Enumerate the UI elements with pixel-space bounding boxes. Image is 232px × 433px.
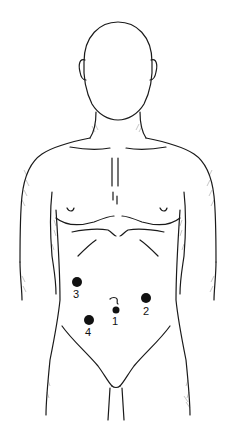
sternum (112, 158, 118, 204)
crotch (108, 386, 124, 420)
marker-4-label: 4 (85, 327, 91, 338)
navel (110, 298, 118, 305)
head-outline (84, 22, 152, 120)
shading-neck (92, 124, 142, 132)
anatomical-figure: 1 2 3 4 (0, 0, 232, 433)
right-arm-inner (180, 192, 186, 294)
right-flank (176, 210, 190, 415)
costal-margin-right (120, 229, 164, 236)
neck-left (90, 112, 96, 138)
marker-2-dot (141, 293, 151, 303)
left-arm-inner (51, 192, 57, 294)
left-ear (79, 60, 86, 80)
right-nipple (160, 208, 167, 211)
right-ear (150, 60, 157, 80)
right-clavicle (126, 147, 166, 149)
shading-legs (47, 380, 190, 408)
marker-4-dot (84, 315, 94, 325)
torso-line-drawing (0, 0, 232, 433)
left-flank (46, 210, 60, 415)
left-nipple (67, 208, 74, 211)
right-pectoral (122, 216, 180, 225)
rib-right (140, 240, 158, 256)
neck-right (140, 112, 146, 138)
marker-1-label: 1 (112, 316, 118, 327)
marker-3-label: 3 (73, 289, 79, 300)
left-shoulder (20, 138, 90, 262)
marker-3-dot (72, 277, 82, 287)
left-arm-outer (20, 262, 22, 300)
right-shoulder (146, 138, 216, 262)
left-pectoral (56, 216, 114, 225)
right-inguinal (120, 326, 170, 386)
costal-margin-left (72, 229, 116, 236)
marker-1-dot (113, 307, 120, 314)
rib-left (78, 240, 96, 256)
right-arm-outer (214, 262, 216, 300)
marker-2-label: 2 (143, 306, 149, 317)
left-clavicle (70, 147, 110, 149)
